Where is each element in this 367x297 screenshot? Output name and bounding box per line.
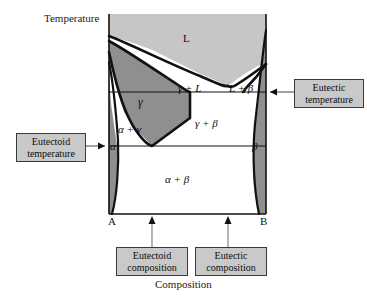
region-label-gamma-plus-beta: γ + β [195,117,218,129]
eutectoid-temperature-arrowhead [98,143,105,150]
region-label-gamma-plus-liquid: γ + L [178,82,201,94]
region-label-liquid-plus-beta: L + β [229,82,253,94]
phase-diagram-figure: Temperature Composition A B L γ α β α + … [0,0,367,297]
region-label-alpha-plus-gamma: α + γ [118,123,141,135]
eutectoid-composition-arrowhead [149,216,156,224]
callout-eutectic-temperature-line1: Eutectic [305,82,353,94]
callout-eutectoid-temperature[interactable]: Eutectoid temperature [16,133,86,162]
callout-eutectic-composition-line2: composition [206,262,255,274]
x-axis-start-label: A [108,215,116,227]
region-label-gamma: γ [138,95,143,110]
eutectic-temperature-arrowhead [270,89,277,96]
callout-eutectoid-temperature-line1: Eutectoid [27,136,75,148]
callout-eutectoid-composition-line2: composition [127,262,176,274]
callout-eutectic-temperature-line2: temperature [305,94,353,106]
callout-eutectic-composition-line1: Eutectic [206,250,255,262]
x-axis-label: Composition [155,278,212,290]
y-axis-label: Temperature [44,12,99,24]
eutectic-composition-arrowhead [225,216,232,224]
callout-eutectic-composition[interactable]: Eutectic composition [195,247,267,276]
x-axis-end-label: B [260,215,267,227]
callout-eutectoid-temperature-line2: temperature [27,148,75,160]
region-label-liquid: L [183,32,190,44]
callout-eutectic-temperature[interactable]: Eutectic temperature [294,79,364,108]
region-label-alpha-plus-beta: α + β [165,173,189,185]
callout-eutectoid-composition-line1: Eutectoid [127,250,176,262]
region-label-beta: β [252,140,257,152]
region-label-alpha: α [110,140,116,152]
callout-eutectoid-composition[interactable]: Eutectoid composition [116,247,188,276]
